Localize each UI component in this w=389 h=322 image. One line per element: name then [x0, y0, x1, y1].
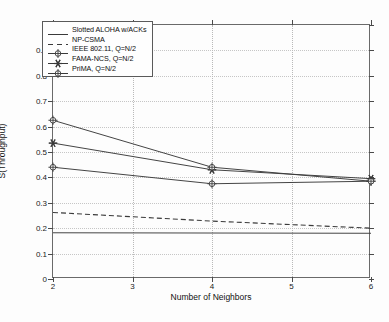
throughput-line-chart: S(Throughput) Number of Neighbors 00.10.… [0, 0, 389, 322]
x-axis-title: Number of Neighbors [52, 292, 370, 302]
x-axis-tick-label: 3 [130, 282, 134, 291]
y-axis-tick-label: 0.2 [36, 224, 47, 233]
data-point-marker-circle-cross [53, 69, 62, 78]
data-point-marker-circle-cross [366, 177, 375, 186]
y-axis-tick-label: 0.7 [36, 97, 47, 106]
y-axis-tick-label: 0.1 [36, 249, 47, 258]
y-axis-tick-label: 0.6 [36, 122, 47, 131]
y-axis-tick-label: 0.4 [36, 173, 47, 182]
legend-item-3: FAMA-NCS, Q=N/2 [46, 54, 148, 64]
legend-item-2: IEEE 802.11, Q=N/2 [46, 44, 148, 54]
y-axis-tick-label: 0.3 [36, 198, 47, 207]
x-axis-tick [371, 20, 372, 25]
x-axis-tick-label: 5 [289, 282, 293, 291]
x-axis-tick-label: 2 [51, 282, 55, 291]
legend-symbol-star-icon [46, 54, 70, 63]
legend-item-0: Slotted ALOHA w/ACKs [46, 25, 148, 35]
legend-label-4: PriMA, Q=N/2 [70, 64, 116, 73]
legend-item-4: PriMA, Q=N/2 [46, 63, 148, 73]
legend-symbol-none-icon [46, 35, 70, 44]
y-axis-tick-label: 0.5 [36, 148, 47, 157]
series-0 [53, 233, 371, 234]
legend-label-2: IEEE 802.11, Q=N/2 [70, 44, 136, 53]
y-axis-title: S(Throughput) [0, 124, 7, 179]
series-1 [53, 212, 371, 228]
legend-symbol-circle-cross-icon [46, 64, 70, 73]
data-point-marker-star [49, 139, 57, 146]
series-3 [49, 139, 375, 182]
y-axis-tick-label: 0 [43, 275, 47, 284]
data-point-marker-circle-cross [48, 116, 57, 125]
legend-symbol-none-icon [46, 25, 70, 34]
legend-label-1: NP-CSMA [70, 35, 105, 44]
data-point-marker-circle-cross [48, 163, 57, 172]
x-axis-tick-label: 6 [369, 282, 373, 291]
x-axis-tick-label: 4 [210, 282, 214, 291]
legend-label-3: FAMA-NCS, Q=N/2 [70, 54, 133, 63]
legend-symbol-circle-cross-icon [46, 44, 70, 53]
data-point-marker-circle-cross [207, 163, 216, 172]
legend-item-1: NP-CSMA [46, 35, 148, 45]
chart-legend: Slotted ALOHA w/ACKsNP-CSMAIEEE 802.11, … [42, 21, 153, 77]
data-point-marker-circle-cross [207, 179, 216, 188]
legend-label-0: Slotted ALOHA w/ACKs [70, 25, 147, 34]
